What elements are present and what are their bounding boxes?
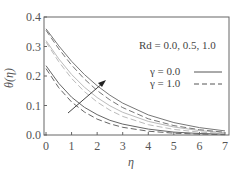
curve-3 xyxy=(46,42,225,133)
curve-1 xyxy=(46,69,225,135)
y-tick-labels: 0.00.10.20.30.4 xyxy=(26,10,41,142)
legend: γ = 0.0 γ = 1.0 xyxy=(149,65,222,89)
y-tick-label: 0.2 xyxy=(26,69,41,83)
x-axis-label: η xyxy=(128,155,134,169)
x-tick-label: 7 xyxy=(222,139,228,153)
y-tick-label: 0.0 xyxy=(26,128,41,142)
arrow-annotation xyxy=(68,80,106,113)
axis-ticks xyxy=(44,17,225,135)
line-chart: 0.00.10.20.30.4 01234567 η θ(η) Rd = 0.0… xyxy=(0,0,239,176)
legend-label-solid: γ = 0.0 xyxy=(149,65,181,77)
x-tick-label: 6 xyxy=(196,139,202,153)
x-tick-label: 4 xyxy=(145,139,151,153)
rd-annotation: Rd = 0.0, 0.5, 1.0 xyxy=(139,39,216,51)
x-tick-label: 2 xyxy=(94,139,100,153)
x-tick-label: 5 xyxy=(171,139,177,153)
legend-label-dashed: γ = 1.0 xyxy=(149,77,181,89)
x-tick-label: 3 xyxy=(120,139,126,153)
y-tick-label: 0.3 xyxy=(26,40,41,54)
y-axis-label: θ(η) xyxy=(2,68,16,88)
y-tick-label: 0.1 xyxy=(26,99,41,113)
y-tick-label: 0.4 xyxy=(26,10,41,24)
x-tick-label: 1 xyxy=(69,139,75,153)
curve-2 xyxy=(46,41,225,133)
x-tick-label: 0 xyxy=(43,139,49,153)
x-tick-labels: 01234567 xyxy=(43,139,228,153)
